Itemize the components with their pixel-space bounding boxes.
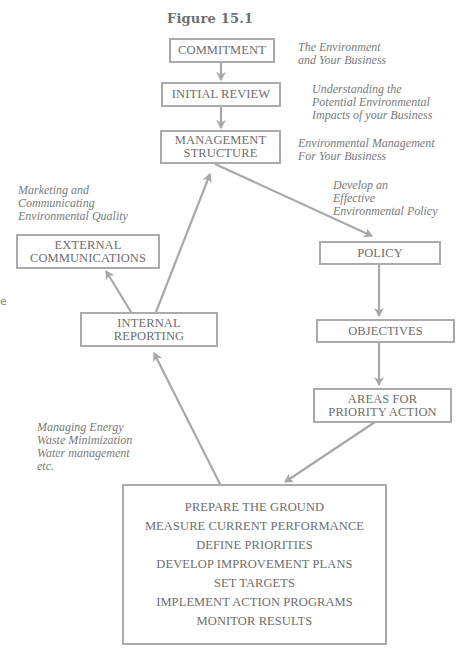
box-label: COMMITMENT xyxy=(178,44,266,57)
arrow-internal-to-management xyxy=(156,174,210,312)
action-step: MEASURE CURRENT PERFORMANCE xyxy=(145,517,364,536)
action-step: SET TARGETS xyxy=(214,574,295,593)
box-label: INTERNAL xyxy=(117,317,180,330)
note-external-communications: Marketing and Communicating Environmenta… xyxy=(18,184,128,223)
arrow-actions-to-internal xyxy=(154,353,220,484)
action-step: PREPARE THE GROUND xyxy=(185,498,324,517)
note-initial-review: Understanding the Potential Environmenta… xyxy=(312,83,432,122)
box-internal-reporting: INTERNAL REPORTING xyxy=(80,312,218,347)
note-policy: Develop an Effective Environmental Polic… xyxy=(333,179,438,218)
note-management-structure: Environmental Management For Your Busine… xyxy=(298,137,435,163)
box-initial-review: INITIAL REVIEW xyxy=(161,82,281,107)
box-areas-priority-action: AREAS FOR PRIORITY ACTION xyxy=(313,388,452,423)
box-label: OBJECTIVES xyxy=(348,325,423,338)
cropped-text-fragment: e xyxy=(0,297,6,307)
box-action-steps: PREPARE THE GROUND MEASURE CURRENT PERFO… xyxy=(122,484,387,645)
box-objectives: OBJECTIVES xyxy=(316,319,455,343)
box-label: EXTERNAL xyxy=(55,239,122,252)
box-label: INITIAL REVIEW xyxy=(172,88,270,101)
box-label: REPORTING xyxy=(114,330,184,343)
action-step: IMPLEMENT ACTION PROGRAMS xyxy=(156,593,353,612)
box-commitment: COMMITMENT xyxy=(169,38,275,63)
box-label: STRUCTURE xyxy=(184,147,258,160)
note-commitment: The Environment and Your Business xyxy=(298,41,386,67)
box-management-structure: MANAGEMENT STRUCTURE xyxy=(160,130,281,164)
action-step: DEVELOP IMPROVEMENT PLANS xyxy=(156,555,352,574)
box-label: POLICY xyxy=(357,247,403,260)
action-step: MONITOR RESULTS xyxy=(197,612,313,631)
box-external-communications: EXTERNAL COMMUNICATIONS xyxy=(16,234,160,269)
arrow-areas-to-actions xyxy=(285,422,375,482)
box-label: AREAS FOR xyxy=(348,393,417,406)
box-label: PRIORITY ACTION xyxy=(328,406,436,419)
box-policy: POLICY xyxy=(319,241,441,265)
note-action-steps: Managing Energy Waste Minimization Water… xyxy=(37,421,132,473)
action-step: DEFINE PRIORITIES xyxy=(196,536,313,555)
box-label: COMMUNICATIONS xyxy=(30,252,146,265)
arrow-internal-to-external xyxy=(106,271,131,312)
